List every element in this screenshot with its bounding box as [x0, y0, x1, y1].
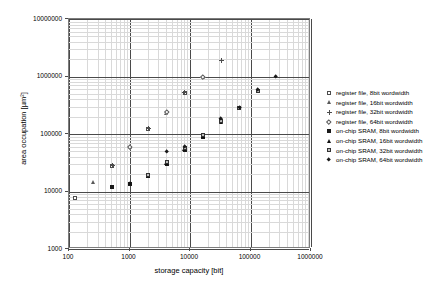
legend-item[interactable]: register file, 64bit wordwidth [327, 117, 443, 127]
y-gridline-minor [69, 204, 309, 205]
x-gridline-minor [241, 19, 242, 247]
legend-label: on-chip SRAM, 64bit wordwidth [336, 155, 422, 165]
y-gridline-minor [69, 209, 309, 210]
x-gridline-minor [187, 19, 188, 247]
chart-figure: 100010000100000100000010000000 100100010… [0, 0, 445, 290]
data-point [201, 133, 205, 137]
x-tick-mark [129, 248, 130, 251]
legend-label: register file, 32bit wordwidth [336, 107, 413, 117]
legend-item[interactable]: register file, 8bit wordwidth [327, 88, 443, 98]
data-point [73, 196, 77, 200]
y-tick-label: 10000 [4, 187, 62, 194]
legend-item[interactable]: register file, 32bit wordwidth [327, 107, 443, 117]
legend-marker-icon [327, 100, 331, 104]
y-gridline-minor [69, 147, 309, 148]
x-gridline-minor [181, 19, 182, 247]
legend-label: register file, 16bit wordwidth [336, 98, 413, 108]
legend-label: register file, 64bit wordwidth [336, 117, 413, 127]
y-gridline-minor [69, 94, 309, 95]
x-gridline-minor [287, 19, 288, 247]
legend-item[interactable]: on-chip SRAM, 32bit wordwidth [327, 146, 443, 156]
x-gridline-minor [172, 19, 173, 247]
y-gridline-minor [69, 143, 309, 144]
legend-item[interactable]: on-chip SRAM, 64bit wordwidth [327, 155, 443, 165]
y-tick-mark [65, 191, 68, 192]
x-gridline-minor [269, 19, 270, 247]
data-point [146, 127, 150, 131]
y-tick-mark [65, 18, 68, 19]
x-gridline-minor [293, 19, 294, 247]
plot-area [68, 18, 310, 248]
legend-marker-icon [327, 148, 331, 152]
y-gridline-minor [69, 82, 309, 83]
legend-item[interactable]: on-chip SRAM, 16bit wordwidth [327, 136, 443, 146]
legend-item[interactable]: register file, 16bit wordwidth [327, 98, 443, 108]
y-tick-label: 1000000 [4, 72, 62, 79]
y-gridline-minor [69, 140, 309, 141]
data-point [219, 58, 223, 62]
y-tick-label: 1000 [4, 245, 62, 252]
y-gridline-minor [69, 28, 309, 29]
x-gridline-minor [98, 19, 99, 247]
x-gridline-minor [111, 19, 112, 247]
x-tick-mark [189, 248, 190, 251]
x-tick-mark [310, 248, 311, 251]
y-gridline-minor [69, 99, 309, 100]
x-gridline-minor [279, 19, 280, 247]
x-gridline-major [251, 19, 252, 247]
legend-marker-icon [326, 119, 331, 124]
legend-marker-icon [327, 139, 331, 143]
y-gridline-minor [69, 194, 309, 195]
y-gridline-minor [69, 22, 309, 23]
data-point [128, 144, 133, 149]
data-point [165, 160, 169, 164]
x-gridline-minor [298, 19, 299, 247]
y-axis-title: area occupation [µm²] [19, 54, 28, 204]
y-gridline-minor [69, 59, 309, 60]
legend-label: on-chip SRAM, 16bit wordwidth [336, 136, 422, 146]
x-gridline-minor [208, 19, 209, 247]
y-gridline-minor [69, 151, 309, 152]
y-tick-label: 10000000 [4, 15, 62, 22]
x-gridline-major [130, 19, 131, 247]
y-gridline-minor [69, 79, 309, 80]
x-gridline-minor [245, 19, 246, 247]
x-gridline-minor [308, 19, 309, 247]
data-point [91, 180, 95, 184]
y-gridline-minor [69, 137, 309, 138]
y-gridline-minor [69, 32, 309, 33]
y-tick-mark [65, 76, 68, 77]
y-gridline-minor [69, 42, 309, 43]
y-tick-label: 100000 [4, 130, 62, 137]
legend-item[interactable]: on-chip SRAM, 8bit wordwidth [327, 126, 443, 136]
y-gridline-minor [69, 157, 309, 158]
x-tick-label: 10000 [159, 253, 219, 260]
y-gridline-major [69, 192, 309, 193]
x-gridline-minor [248, 19, 249, 247]
x-axis-title: storage capacity [bit] [68, 266, 310, 275]
legend-label: on-chip SRAM, 8bit wordwidth [336, 126, 419, 136]
x-gridline-major [311, 19, 312, 247]
data-point [110, 185, 114, 189]
y-gridline-minor [69, 232, 309, 233]
x-gridline-minor [124, 19, 125, 247]
x-gridline-minor [226, 19, 227, 247]
legend-marker-icon [327, 158, 332, 163]
x-tick-mark [68, 248, 69, 251]
y-gridline-major [69, 19, 309, 20]
x-gridline-minor [158, 19, 159, 247]
x-tick-label: 1000000 [280, 253, 340, 260]
x-gridline-major [190, 19, 191, 247]
x-gridline-minor [116, 19, 117, 247]
y-gridline-minor [69, 25, 309, 26]
x-gridline-minor [120, 19, 121, 247]
y-gridline-minor [69, 117, 309, 118]
legend-label: on-chip SRAM, 32bit wordwidth [336, 146, 422, 156]
y-gridline-minor [69, 89, 309, 90]
y-gridline-minor [69, 49, 309, 50]
legend-marker-icon [327, 91, 331, 95]
x-gridline-minor [232, 19, 233, 247]
y-gridline-minor [69, 222, 309, 223]
data-point [183, 91, 187, 95]
y-gridline-minor [69, 174, 309, 175]
